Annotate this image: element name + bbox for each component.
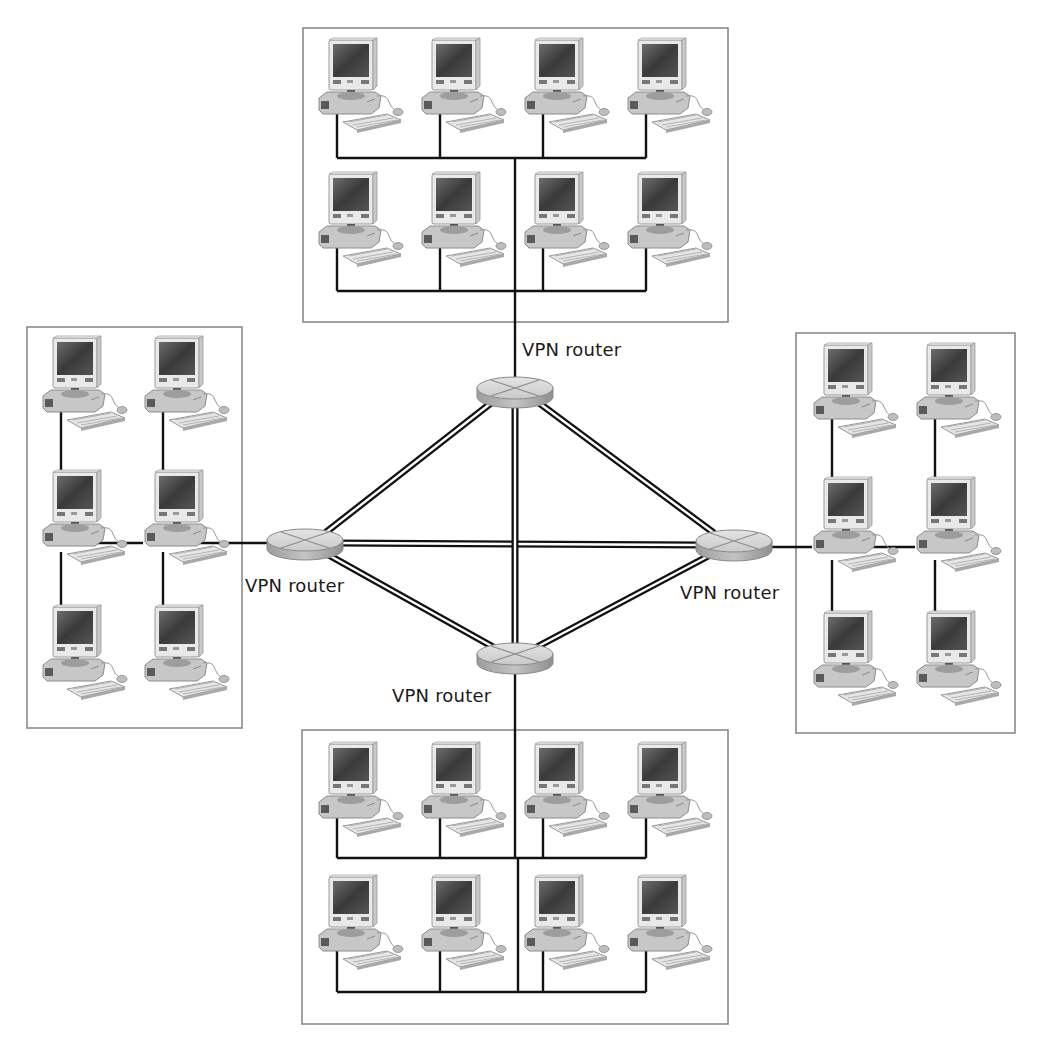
desktop-computer-icon [43, 470, 127, 565]
desktop-computer-icon [43, 605, 127, 700]
desktop-computer-icon [917, 477, 1001, 572]
desktop-computer-icon [422, 742, 506, 837]
lan-right [772, 333, 1015, 733]
desktop-computer-icon [628, 38, 712, 133]
lan-left [27, 327, 267, 728]
router-label-right: VPN router [680, 582, 779, 603]
desktop-computer-icon [525, 875, 609, 970]
tunnel-left-bottom [325, 553, 495, 648]
router-label-top: VPN router [522, 339, 621, 360]
desktop-computer-icon [319, 172, 403, 267]
desktop-computer-icon [814, 611, 898, 706]
desktop-computer-icon [422, 38, 506, 133]
lan-top [303, 28, 728, 380]
desktop-computer-icon [43, 336, 127, 431]
vpn-router-icon [477, 377, 553, 408]
desktop-computer-icon [917, 611, 1001, 706]
desktop-computer-icon [917, 343, 1001, 438]
desktop-computer-icon [319, 38, 403, 133]
desktop-computer-icon [525, 172, 609, 267]
desktop-computer-icon [145, 336, 229, 431]
desktop-computer-icon [319, 742, 403, 837]
router-label-bottom: VPN router [392, 685, 491, 706]
desktop-computer-icon [525, 38, 609, 133]
desktop-computer-icon [628, 172, 712, 267]
vpn-router-icon [267, 529, 343, 560]
vpn-network-diagram [0, 0, 1042, 1041]
desktop-computer-icon [628, 875, 712, 970]
desktop-computer-icon [145, 470, 229, 565]
tunnel-top-left [325, 400, 495, 533]
vpn-router-icon [477, 643, 553, 674]
desktop-computer-icon [422, 875, 506, 970]
desktop-computer-icon [319, 875, 403, 970]
vpn-router-icon [696, 530, 772, 561]
desktop-computer-icon [422, 172, 506, 267]
tunnel-left-right [335, 543, 704, 545]
router-label-left: VPN router [245, 575, 344, 596]
vpn-tunnels [325, 400, 714, 650]
tunnel-top-right [535, 400, 714, 533]
desktop-computer-icon [525, 742, 609, 837]
desktop-computer-icon [628, 742, 712, 837]
desktop-computer-icon [814, 343, 898, 438]
desktop-computer-icon [145, 605, 229, 700]
desktop-computer-icon [814, 477, 898, 572]
lan-bottom [302, 670, 728, 1024]
